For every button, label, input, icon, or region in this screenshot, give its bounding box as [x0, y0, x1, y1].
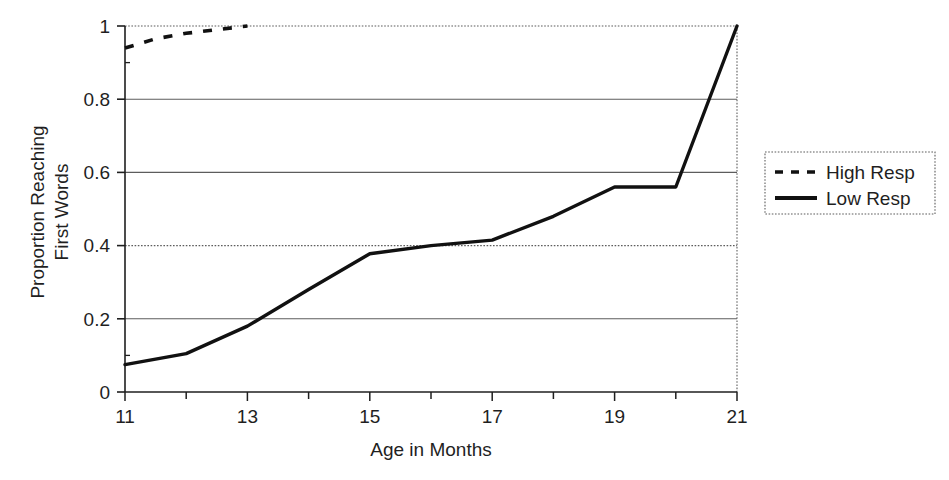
x-axis-title: Age in Months [370, 439, 491, 460]
x-tick-label-21: 21 [726, 406, 747, 427]
legend-label-low-resp: Low Resp [826, 188, 911, 209]
plot-area-background [125, 26, 737, 392]
legend: High Resp Low Resp [765, 152, 935, 214]
x-axis-ticks [125, 392, 737, 401]
x-tick-label-13: 13 [237, 406, 258, 427]
y-tick-label-0.8: 0.8 [84, 89, 110, 110]
x-tick-label-19: 19 [604, 406, 625, 427]
x-tick-label-17: 17 [482, 406, 503, 427]
y-axis-ticks [117, 26, 125, 392]
y-axis-title-line-1: Proportion Reaching [27, 125, 48, 298]
y-tick-label-0.2: 0.2 [84, 309, 110, 330]
y-tick-label-0.6: 0.6 [84, 162, 110, 183]
y-tick-label-0.4: 0.4 [84, 235, 111, 256]
y-axis-title-line-2: First Words [51, 164, 72, 261]
chart-figure: 1 0.8 0.6 0.4 0.2 0 11 13 15 17 19 21 Ag… [0, 0, 949, 480]
line-chart: 1 0.8 0.6 0.4 0.2 0 11 13 15 17 19 21 Ag… [0, 0, 949, 480]
y-tick-label-1: 1 [99, 16, 110, 37]
x-tick-label-11: 11 [115, 406, 135, 427]
legend-label-high-resp: High Resp [826, 162, 915, 183]
y-tick-label-0: 0 [99, 382, 110, 403]
x-tick-label-15: 15 [359, 406, 380, 427]
